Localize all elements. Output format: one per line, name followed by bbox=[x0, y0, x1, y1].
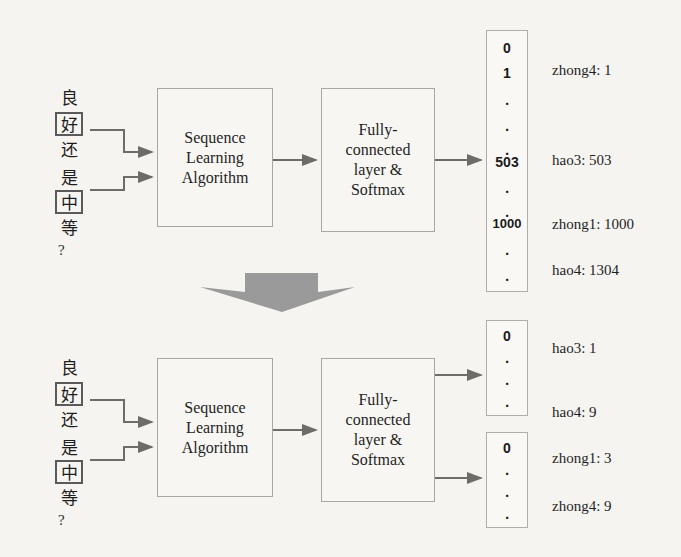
vector-cell: 1 bbox=[487, 66, 527, 80]
input-question-mark: ? bbox=[58, 512, 65, 529]
annotation-zhong4-split: zhong4: 9 bbox=[552, 498, 612, 515]
vector-cell: . bbox=[487, 181, 527, 195]
input-char-hao-boxed[interactable]: 好 bbox=[55, 112, 83, 136]
annotation-hao3: hao3: 503 bbox=[552, 152, 612, 169]
input-char-deng: 等 bbox=[56, 218, 82, 238]
fully-connected-box-top[interactable]: Fully- connected layer & Softmax bbox=[321, 88, 435, 232]
sequence-learning-label-bottom: Sequence Learning Algorithm bbox=[182, 398, 249, 458]
vector-cell: . bbox=[487, 93, 527, 107]
vector-cell: . bbox=[487, 119, 527, 133]
input-char-deng: 等 bbox=[56, 488, 82, 508]
vector-cell: . bbox=[487, 243, 527, 257]
annotation-zhong1-split: zhong1: 3 bbox=[552, 450, 612, 467]
sequence-learning-label-top: Sequence Learning Algorithm bbox=[182, 128, 249, 188]
zhong-output-vector[interactable]: 0 . . . bbox=[486, 432, 528, 528]
annotation-zhong1: zhong1: 1000 bbox=[552, 216, 634, 233]
downward-transition-arrow bbox=[200, 273, 355, 312]
combined-output-vector[interactable]: 0 1 . . . 503 . . 1000 . . bbox=[486, 30, 528, 292]
annotation-zhong4: zhong4: 1 bbox=[552, 62, 612, 79]
annotation-hao3-split: hao3: 1 bbox=[552, 340, 597, 357]
fully-connected-label-top: Fully- connected layer & Softmax bbox=[346, 120, 411, 200]
vector-cell: . bbox=[487, 373, 527, 387]
input-char-hao-boxed[interactable]: 好 bbox=[55, 382, 83, 406]
vector-cell: . bbox=[487, 485, 527, 499]
sequence-learning-box-bottom[interactable]: Sequence Learning Algorithm bbox=[157, 358, 273, 497]
vector-cell: 0 bbox=[487, 329, 527, 343]
annotation-hao4-split: hao4: 9 bbox=[552, 404, 597, 421]
input-char-liang: 良 bbox=[56, 358, 82, 378]
vector-cell: 0 bbox=[487, 441, 527, 455]
input-char-hai: 还 bbox=[56, 140, 82, 160]
input-char-zhong-boxed[interactable]: 中 bbox=[55, 460, 83, 484]
input-char-shi: 是 bbox=[56, 168, 82, 188]
vector-cell: . bbox=[487, 269, 527, 283]
sequence-learning-box-top[interactable]: Sequence Learning Algorithm bbox=[157, 88, 273, 227]
vector-cell: . bbox=[487, 507, 527, 521]
hao-output-vector[interactable]: 0 . . . bbox=[486, 320, 528, 416]
input-char-liang: 良 bbox=[56, 88, 82, 108]
diagram-canvas: 良 好 还 是 中 等 ? Sequence Learning Algorith… bbox=[0, 0, 681, 557]
input-question-mark: ? bbox=[58, 242, 65, 259]
annotation-hao4: hao4: 1304 bbox=[552, 262, 619, 279]
vector-cell: . bbox=[487, 463, 527, 477]
vector-cell: . bbox=[487, 351, 527, 365]
vector-cell: 1000 bbox=[487, 217, 527, 231]
fully-connected-box-bottom[interactable]: Fully- connected layer & Softmax bbox=[321, 358, 435, 502]
vector-cell: 0 bbox=[487, 41, 527, 55]
input-char-zhong-boxed[interactable]: 中 bbox=[55, 190, 83, 214]
input-char-shi: 是 bbox=[56, 438, 82, 458]
vector-cell: 503 bbox=[487, 155, 527, 169]
vector-cell: . bbox=[487, 395, 527, 409]
input-char-hai: 还 bbox=[56, 410, 82, 430]
fully-connected-label-bottom: Fully- connected layer & Softmax bbox=[346, 390, 411, 470]
